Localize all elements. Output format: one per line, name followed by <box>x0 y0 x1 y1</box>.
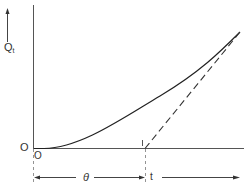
y-axis-label: Qt <box>4 42 15 54</box>
theta-arrow-right-head-icon <box>139 176 145 180</box>
time-label: t <box>150 172 153 182</box>
origin-label-left: O <box>20 142 29 153</box>
y-axis-label-subscript: t <box>13 47 15 54</box>
y-axis-label-text: Q <box>4 41 13 53</box>
lag-label: θ <box>83 172 89 183</box>
time-arrow-head-icon <box>233 176 240 180</box>
theta-arrow-left-head-icon <box>34 176 40 180</box>
response-curve <box>34 32 240 149</box>
q-arrow-head-icon <box>6 8 10 14</box>
asymptote-dashed <box>145 32 240 149</box>
origin-label-below: O <box>34 151 42 161</box>
